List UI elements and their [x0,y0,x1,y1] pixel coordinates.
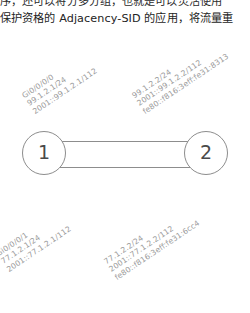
router-node-2[interactable]: 2 [184,131,228,175]
router-node-1[interactable]: 1 [22,131,66,175]
document-line-1: 序，还可以将分多分组，也就是可以灵活使用 [0,0,250,9]
network-topology-diagram: 1 2 Gi0/0/0/0 99.1.2.1/24 2001::99.1.2.1… [0,36,250,313]
interface-ipv6-bottom-right: 2001::77.1.2.2/112 [108,210,196,274]
link-upper [44,141,206,142]
document-line-2: 保护资格的 Adjacency-SID 的应用，将流量重 [0,11,250,26]
interface-label-bottom-right: 77.1.2.2/24 2001::77.1.2.2/112 fe80::f81… [102,203,201,282]
interface-label-top-right: 99.1.2.2/24 2001::99.1.2.2/112 fe80::f81… [130,36,230,116]
router-node-2-label: 2 [200,143,212,162]
interface-ipv6-top-right: 2001::99.1.2.2/112 [136,44,225,109]
document-line-1-text: 序，还可以将分多分组，也就是可以灵活使用 [0,0,222,9]
router-node-1-label: 1 [38,143,50,162]
document-text-block: 序，还可以将分多分组，也就是可以灵活使用 保护资格的 Adjacency-SID… [0,0,250,26]
link-lower [44,167,206,168]
interface-label-bottom-left: Gi0/0/0/1 77.1.2.1/24 2001::77.1.2.1/112 [0,208,73,273]
interface-label-top-left: Gi0/0/0/0 99.1.2.1/24 2001::99.1.2.1/112 [20,50,98,115]
